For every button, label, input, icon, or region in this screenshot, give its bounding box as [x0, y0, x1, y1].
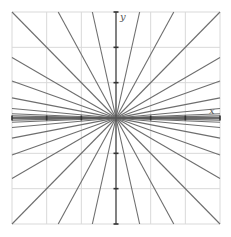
y-axis-label: y [119, 11, 126, 22]
line-family-diagram: x y [0, 0, 231, 237]
x-axis-label: x [209, 105, 215, 116]
